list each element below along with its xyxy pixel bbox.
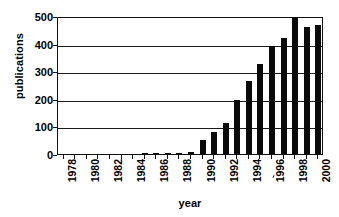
y-tick-label-100: 100 <box>24 122 53 133</box>
y-tick-mark-0 <box>53 155 57 156</box>
x-axis-label: year <box>57 197 323 209</box>
x-tick-label-2000: 2000 <box>321 159 332 182</box>
bar-1996 <box>269 46 275 154</box>
bar-2000 <box>315 25 321 154</box>
x-tick-label-1988: 1988 <box>182 159 193 182</box>
bar-1986 <box>153 153 159 154</box>
x-tick-label-1978: 1978 <box>67 159 78 182</box>
bar-slot <box>208 18 220 154</box>
y-tick-mark-300 <box>53 72 57 73</box>
y-tick-mark-500 <box>53 17 57 18</box>
bar-slot <box>289 18 301 154</box>
y-tick-mark-200 <box>53 100 57 101</box>
y-tick-label-200: 200 <box>24 94 53 105</box>
x-tick-label-1984: 1984 <box>136 159 147 182</box>
x-tick-label-1990: 1990 <box>206 159 217 182</box>
bar-slot <box>174 18 186 154</box>
x-tick-label-1980: 1980 <box>90 159 101 182</box>
bar-slot <box>220 18 232 154</box>
bar-slot <box>93 18 105 154</box>
bar-1988 <box>176 153 182 154</box>
bar-1991 <box>211 132 217 154</box>
bar-1997 <box>281 38 287 154</box>
bar-slot <box>104 18 116 154</box>
x-tick-label-1986: 1986 <box>159 159 170 182</box>
x-tick-label-1998: 1998 <box>298 159 309 182</box>
bar-slot <box>139 18 151 154</box>
bar-1998 <box>292 17 298 154</box>
bar-1992 <box>223 123 229 154</box>
y-axis-tick-labels: 0100200300400500 <box>24 17 53 155</box>
bar-1995 <box>257 64 263 154</box>
bar-slot <box>185 18 197 154</box>
x-axis-tick-labels: 1978198019821984198619881990199219941996… <box>57 159 323 195</box>
bar-slot <box>127 18 139 154</box>
y-tick-label-300: 300 <box>24 67 53 78</box>
bar-slot <box>81 18 93 154</box>
x-tick-label-1982: 1982 <box>113 159 124 182</box>
y-tick-label-500: 500 <box>24 12 53 23</box>
x-tick-label-1994: 1994 <box>252 159 263 182</box>
bar-slot <box>278 18 290 154</box>
y-tick-label-400: 400 <box>24 39 53 50</box>
bar-slot <box>312 18 324 154</box>
y-tick-mark-100 <box>53 127 57 128</box>
bar-series <box>58 18 322 154</box>
bar-1999 <box>304 27 310 154</box>
x-tick-label-1996: 1996 <box>275 159 286 182</box>
bar-1994 <box>246 81 252 154</box>
bar-1993 <box>234 100 240 154</box>
y-tick-label-0: 0 <box>24 150 53 161</box>
bar-1990 <box>200 140 206 154</box>
bar-1987 <box>165 153 171 154</box>
bar-slot <box>266 18 278 154</box>
bar-slot <box>197 18 209 154</box>
bar-slot <box>116 18 128 154</box>
bar-slot <box>255 18 267 154</box>
publications-per-year-bar-chart: publications 0100200300400500 1978198019… <box>0 0 339 217</box>
bar-slot <box>231 18 243 154</box>
plot-area <box>57 17 323 155</box>
bar-1989 <box>188 152 194 154</box>
x-tick-label-1992: 1992 <box>229 159 240 182</box>
bar-slot <box>70 18 82 154</box>
bar-slot <box>151 18 163 154</box>
bar-slot <box>301 18 313 154</box>
bar-slot <box>162 18 174 154</box>
bar-slot <box>58 18 70 154</box>
bar-slot <box>243 18 255 154</box>
y-tick-mark-400 <box>53 45 57 46</box>
bar-1985 <box>142 153 148 154</box>
